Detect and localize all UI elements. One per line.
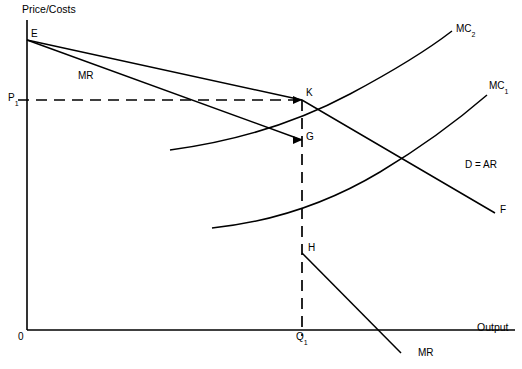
curve-label-mr-upper: MR xyxy=(78,71,94,81)
marginal-revenue-upper-segment xyxy=(27,40,302,140)
curve-label-mc2: MC2 xyxy=(456,24,475,36)
mc1-base: MC xyxy=(489,80,505,91)
p1-subscript: 1 xyxy=(15,100,19,107)
q1-subscript: 1 xyxy=(304,339,308,346)
y-tick-label-p1: P1 xyxy=(8,93,19,105)
point-label-e: E xyxy=(31,29,38,39)
origin-label: 0 xyxy=(18,332,24,342)
arrow-head-k xyxy=(293,96,302,104)
point-label-k: K xyxy=(306,88,313,98)
marginal-revenue-lower-segment xyxy=(302,253,401,353)
curve-label-mc1: MC1 xyxy=(489,81,508,93)
point-label-h: H xyxy=(308,243,315,253)
mc1-subscript: 1 xyxy=(505,88,509,95)
mc2-base: MC xyxy=(456,23,472,34)
marginal-cost-curve-mc1 xyxy=(212,95,487,228)
kinked-demand-diagram-svg xyxy=(0,0,522,369)
diagram-canvas: Price/Costs Output 0 P1 Q1 E K G H MR MR… xyxy=(0,0,522,369)
curve-label-mr-lower: MR xyxy=(418,348,434,358)
mc2-subscript: 2 xyxy=(472,31,476,38)
y-axis-label: Price/Costs xyxy=(22,4,76,15)
x-axis-label: Output xyxy=(477,322,509,333)
arrow-head-g xyxy=(293,136,302,144)
point-label-g: G xyxy=(306,132,314,142)
x-tick-label-q1: Q1 xyxy=(296,332,308,344)
curve-label-demand-d-ar: D = AR xyxy=(465,160,497,170)
curve-endpoint-label-f: F xyxy=(500,205,506,215)
p1-base: P xyxy=(8,92,15,103)
q1-base: Q xyxy=(296,331,304,342)
